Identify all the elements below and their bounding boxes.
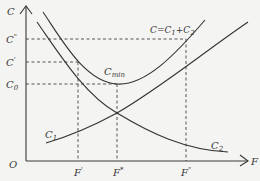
- c2-curve: [37, 22, 228, 152]
- x-tick-f-double-prime: F": [180, 166, 191, 178]
- x-tick-f-star: F*: [112, 166, 124, 178]
- y-tick-c-double-prime: C": [6, 33, 17, 45]
- x-axis-label: F: [250, 156, 259, 167]
- y-tick-c0: C0: [6, 79, 19, 92]
- c1-curve: [46, 22, 248, 143]
- curves: [37, 12, 248, 152]
- y-axis-labels: C C" C' C0 O: [6, 6, 19, 170]
- x-axis-labels: F' F* F" F: [73, 156, 259, 178]
- y-tick-c-prime: C': [6, 56, 16, 68]
- c1-label: C1: [45, 129, 57, 142]
- x-tick-f-prime: F': [73, 166, 83, 178]
- guide-lines: [26, 39, 186, 161]
- total-cost-label: C=C1+C2: [150, 25, 195, 37]
- cost-curve-diagram: C C" C' C0 O F' F* F" F C=C1+C2 Cmin C1 …: [0, 0, 260, 181]
- origin-label: O: [9, 159, 17, 170]
- y-axis-label: C: [7, 6, 15, 17]
- cmin-label: Cmin: [104, 66, 126, 79]
